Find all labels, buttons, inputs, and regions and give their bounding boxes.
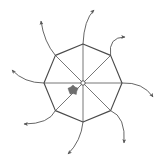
center-hub-icon — [81, 81, 85, 85]
arrow-southwest — [24, 111, 55, 124]
arrow-northeast — [110, 37, 125, 55]
arrow-northwest — [41, 21, 55, 55]
spoke-6 — [55, 83, 83, 111]
arrow-east — [122, 83, 153, 97]
center-hub-group — [81, 81, 85, 85]
center-blob-group — [68, 85, 78, 95]
arrow-west — [12, 70, 44, 83]
spoke-2 — [83, 55, 111, 83]
arrow-southeast — [111, 111, 125, 143]
arrow-north — [83, 10, 94, 44]
arrow-south — [68, 122, 83, 154]
spoke-8 — [55, 55, 83, 83]
figure-canvas — [0, 0, 164, 161]
spoke-4 — [83, 83, 111, 111]
irregular-blob-icon — [68, 85, 78, 95]
radial-octagon-diagram — [0, 0, 164, 161]
